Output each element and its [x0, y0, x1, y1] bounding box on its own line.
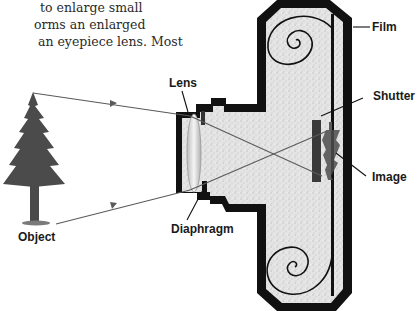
- label-diaphragm: Diaphragm: [171, 222, 234, 236]
- ray-arrows: [110, 100, 117, 209]
- label-object: Object: [18, 230, 55, 244]
- tree-object: [3, 92, 65, 226]
- camera-diagram: [0, 0, 419, 311]
- label-image: Image: [372, 170, 407, 184]
- label-film: Film: [372, 20, 397, 34]
- label-lens: Lens: [169, 76, 197, 90]
- shutter: [312, 120, 321, 182]
- lens: [187, 114, 201, 192]
- label-shutter: Shutter: [373, 89, 415, 103]
